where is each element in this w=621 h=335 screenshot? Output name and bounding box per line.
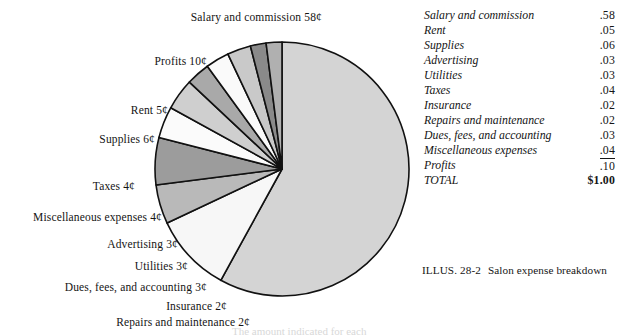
caption-number: ILLUS. 28-2 xyxy=(422,264,481,276)
table-row: TOTAL$1.00 xyxy=(424,173,616,188)
expense-table: Salary and commission.58Rent.05Supplies.… xyxy=(424,8,616,188)
pie-label-utilities: Utilities 3¢ xyxy=(0,260,188,272)
table-row-value: .03 xyxy=(600,53,615,68)
pie-label-rent: Rent 5¢ xyxy=(0,104,168,116)
pie-label-profits: Profits 10¢ xyxy=(0,55,207,67)
pie-label-insurance: Insurance 2¢ xyxy=(0,300,227,312)
table-row-value: .03 xyxy=(600,68,615,83)
table-row-label: Salary and commission xyxy=(424,8,534,23)
table-row-value: .02 xyxy=(600,98,615,113)
table-row-value: .58 xyxy=(600,8,615,23)
table-row-value: .02 xyxy=(600,113,615,128)
table-row: Dues, fees, and accounting.03 xyxy=(424,128,616,143)
table-row-value: .04 xyxy=(600,83,615,98)
table-row: Miscellaneous expenses.04 xyxy=(424,143,616,158)
table-row-label: Supplies xyxy=(424,38,464,53)
table-row-value: .03 xyxy=(600,128,615,143)
figure-caption: ILLUS. 28-2Salon expense breakdown xyxy=(422,264,607,277)
table-row: Profits.10 xyxy=(424,158,616,173)
pie-slices xyxy=(155,42,409,296)
table-row: Taxes.04 xyxy=(424,83,616,98)
pie-label-dues-fees-and-accounting: Dues, fees, and accounting 3¢ xyxy=(0,281,207,293)
table-row: Rent.05 xyxy=(424,23,616,38)
table-row-label: Dues, fees, and accounting xyxy=(424,128,551,143)
table-row: Salary and commission.58 xyxy=(424,8,616,23)
table-row: Repairs and maintenance.02 xyxy=(424,113,616,128)
table-row-label: Miscellaneous expenses xyxy=(424,143,537,158)
pie-label-repairs-and-maintenance: Repairs and maintenance 2¢ xyxy=(0,316,250,328)
table-row-label: Utilities xyxy=(424,68,462,83)
table-row-value: .06 xyxy=(600,38,615,53)
table-row-label: TOTAL xyxy=(424,173,458,188)
table-row-value: .10 xyxy=(600,158,615,174)
table-row-label: Insurance xyxy=(424,98,471,113)
table-row-value: $1.00 xyxy=(587,173,615,188)
page-body-text-fragment: The amount indicated for each xyxy=(232,325,366,335)
pie-label-advertising: Advertising 3¢ xyxy=(0,238,178,250)
caption-text: Salon expense breakdown xyxy=(488,264,607,276)
table-row: Supplies.06 xyxy=(424,38,616,53)
pie-label-taxes: Taxes 4¢ xyxy=(0,180,135,192)
pie-label-supplies: Supplies 6¢ xyxy=(0,133,155,145)
table-row: Insurance.02 xyxy=(424,98,616,113)
table-row-value: .04 xyxy=(600,143,615,158)
table-row-label: Profits xyxy=(424,158,456,173)
table-row-label: Rent xyxy=(424,23,446,38)
pie-label-miscellaneous-expenses: Miscellaneous expenses 4¢ xyxy=(0,211,162,223)
table-row: Utilities.03 xyxy=(424,68,616,83)
table-row-label: Repairs and maintenance xyxy=(424,113,545,128)
table-row-label: Advertising xyxy=(424,53,478,68)
pie-label-salary-and-commission: Salary and commission 58¢ xyxy=(32,11,322,23)
table-row: Advertising.03 xyxy=(424,53,616,68)
table-row-value: .05 xyxy=(600,23,615,38)
table-row-label: Taxes xyxy=(424,83,450,98)
figure-root: Salary and commission 58¢ Profits 10¢ Re… xyxy=(0,0,621,335)
